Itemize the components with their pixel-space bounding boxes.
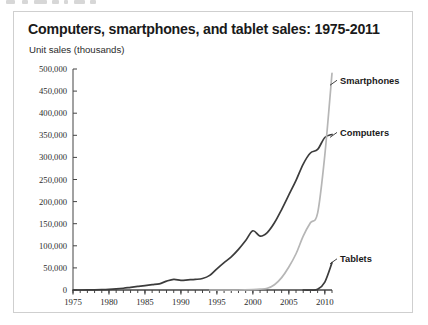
toolbar-fragment bbox=[22, 0, 28, 4]
toolbar-fragment bbox=[90, 0, 96, 4]
x-tick-label: 2005 bbox=[280, 297, 298, 307]
series-line-tablets bbox=[303, 263, 332, 291]
series-label-computers: Computers bbox=[340, 128, 389, 138]
series-line-smartphones bbox=[210, 73, 332, 290]
cropped-toolbar-sliver bbox=[0, 0, 428, 7]
y-tick-label: 50,000 bbox=[43, 263, 67, 273]
y-axis: 050,000100,000150,000200,000250,000300,0… bbox=[39, 64, 77, 295]
x-tick-label: 2000 bbox=[244, 297, 262, 307]
y-tick-label: 400,000 bbox=[39, 108, 67, 118]
toolbar-fragment bbox=[34, 0, 47, 4]
y-tick-label: 300,000 bbox=[39, 152, 67, 162]
x-tick-label: 1995 bbox=[208, 297, 226, 307]
toolbar-fragment bbox=[6, 0, 15, 4]
y-tick-label: 500,000 bbox=[39, 64, 67, 74]
y-tick-label: 150,000 bbox=[39, 219, 67, 229]
x-tick-label: 1990 bbox=[172, 297, 190, 307]
x-tick-label: 1980 bbox=[100, 297, 118, 307]
line-chart-plot: 050,000100,000150,000200,000250,000300,0… bbox=[14, 12, 414, 314]
series-labels: ComputersSmartphonesTablets bbox=[330, 76, 399, 265]
y-tick-label: 100,000 bbox=[39, 241, 67, 251]
toolbar-fragment bbox=[64, 0, 68, 4]
x-axis: 19751980198519901995200020052010 bbox=[64, 290, 334, 307]
series-leader-tablets bbox=[330, 259, 337, 264]
y-tick-label: 200,000 bbox=[39, 197, 67, 207]
y-tick-label: 250,000 bbox=[39, 175, 67, 185]
x-tick-label: 1975 bbox=[64, 297, 82, 307]
y-tick-label: 0 bbox=[63, 285, 67, 295]
series-label-tablets: Tablets bbox=[340, 254, 372, 264]
toolbar-fragment bbox=[52, 0, 59, 4]
chart-card: Computers, smartphones, and tablet sales… bbox=[13, 11, 413, 313]
y-tick-label: 450,000 bbox=[39, 86, 67, 96]
x-tick-label: 1985 bbox=[136, 297, 154, 307]
y-tick-label: 350,000 bbox=[39, 130, 67, 140]
series-line-computers bbox=[73, 134, 332, 290]
series-label-smartphones: Smartphones bbox=[340, 76, 399, 86]
x-tick-label: 2010 bbox=[316, 297, 334, 307]
series-lines bbox=[73, 73, 332, 290]
toolbar-fragment bbox=[74, 0, 85, 4]
